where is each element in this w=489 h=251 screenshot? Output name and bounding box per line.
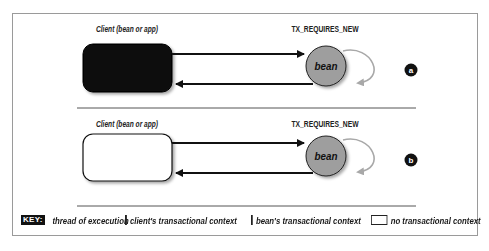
client-box-black	[83, 44, 172, 92]
attribute-label: TX_REQUIRES_NEW	[292, 119, 359, 129]
badge-b-label: b	[409, 156, 414, 165]
legend-label: client's transactional context	[130, 215, 237, 226]
loop-arrow-icon	[343, 50, 374, 83]
bean-label: bean	[315, 61, 338, 72]
panel-a: Client (bean or app) TX_REQUIRES_NEW bea…	[83, 24, 418, 92]
legend-item-bean-context: bean's transactional context	[251, 215, 343, 226]
legend: KEY: thread of excecution client's trans…	[21, 213, 489, 227]
white-swatch-icon	[371, 215, 387, 225]
legend-item-thread: thread of excecution	[50, 215, 112, 226]
legend-item-client-context: client's transactional context	[125, 215, 222, 226]
legend-label: bean's transactional context	[256, 215, 361, 226]
attribute-label: TX_REQUIRES_NEW	[292, 24, 359, 34]
key-tag: KEY:	[21, 215, 45, 225]
client-label: Client (bean or app)	[96, 24, 158, 34]
loop-arrow-icon	[343, 139, 374, 172]
legend-label: thread of excecution	[52, 215, 128, 226]
panel-b: Client (bean or app) TX_REQUIRES_NEW bea…	[83, 119, 418, 181]
legend-item-no-context: no transactional context	[371, 215, 481, 226]
legend-label: no transactional context	[390, 215, 480, 226]
black-swatch-icon	[125, 215, 127, 225]
client-label: Client (bean or app)	[96, 119, 158, 129]
badge-a-label: a	[409, 66, 414, 75]
bean-label: bean	[315, 151, 338, 162]
client-box-white	[83, 134, 172, 181]
gray-swatch-icon	[251, 215, 253, 225]
